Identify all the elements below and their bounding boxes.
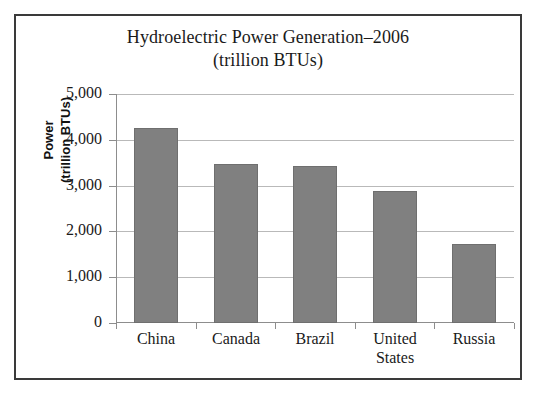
y-axis-tick — [109, 231, 117, 232]
x-axis-label-china: China — [116, 329, 196, 348]
y-axis-tick-label: 2,000 — [18, 221, 102, 239]
y-axis-tick-label: 5,000 — [18, 84, 102, 102]
x-axis-label-line: United — [355, 329, 435, 348]
x-axis-label-brazil: Brazil — [275, 329, 355, 348]
axis-ticks-and-labels: 01,0002,0003,0004,0005,000ChinaCanadaBra… — [16, 16, 520, 378]
y-axis-tick-label: 1,000 — [18, 267, 102, 285]
x-axis-label-line: Brazil — [275, 329, 355, 348]
y-axis-tick — [109, 186, 117, 187]
y-axis-tick — [109, 94, 117, 95]
x-axis-label-line: Canada — [196, 329, 276, 348]
chart-figure: Hydroelectric Power Generation–2006 (tri… — [14, 14, 522, 380]
y-axis-tick — [109, 277, 117, 278]
x-axis-label-russia: Russia — [434, 329, 514, 348]
x-axis-label-line: Russia — [434, 329, 514, 348]
x-axis-label-line: China — [116, 329, 196, 348]
x-axis-label-united-states: UnitedStates — [355, 329, 435, 367]
x-axis-label-line: States — [355, 348, 435, 367]
y-axis-tick-label: 0 — [18, 313, 102, 331]
x-axis-tick — [514, 323, 515, 329]
y-axis-tick-label: 4,000 — [18, 130, 102, 148]
x-axis-label-canada: Canada — [196, 329, 276, 348]
y-axis-tick — [109, 140, 117, 141]
y-axis-tick-label: 3,000 — [18, 176, 102, 194]
